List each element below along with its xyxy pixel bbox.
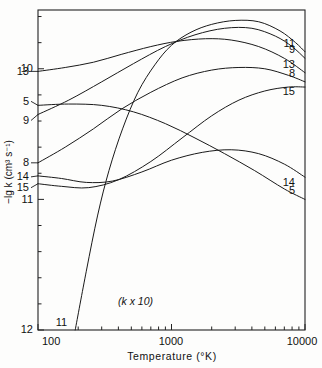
curve-8 — [38, 67, 305, 162]
chart-canvas: 1359814151111913815514 100 1000 10000 10… — [0, 0, 322, 368]
curve-label-right-8: 8 — [289, 67, 295, 79]
curve-label-right-9: 9 — [289, 43, 295, 55]
y-tick-label-10: 10 — [21, 62, 33, 74]
annotation-k-times-ten: (k x 10) — [118, 295, 153, 307]
curve-label-right-15: 15 — [283, 85, 295, 97]
x-tick-label-1000: 1000 — [159, 335, 183, 347]
curve-label-left-5: 5 — [23, 95, 29, 107]
curve-14 — [38, 150, 305, 183]
x-axis-title: Temperature (°K) — [127, 350, 217, 362]
y-tick-label-11: 11 — [22, 193, 33, 205]
y-axis-title: −lg k (cm³ s⁻¹) — [3, 140, 14, 204]
data-curves — [38, 20, 305, 330]
x-tick-label-100: 100 — [42, 335, 60, 347]
plot-frame — [38, 10, 305, 330]
curve-9 — [38, 27, 305, 114]
curve-label-left-8: 8 — [23, 156, 29, 168]
curve-labels: 1359814151111913815514 — [17, 37, 295, 328]
y-tick-label-12: 12 — [21, 323, 33, 335]
axis-ticks — [38, 17, 305, 330]
curve-5 — [38, 104, 305, 199]
x-tick-label-10000: 10000 — [287, 335, 318, 347]
curve-label-right-14: 14 — [283, 176, 295, 188]
curve-label-left-11: 11 — [56, 316, 67, 328]
chart-figure: 1359814151111913815514 100 1000 10000 10… — [0, 0, 322, 368]
curve-15 — [38, 87, 305, 188]
curve-11 — [75, 20, 305, 330]
curve-label-left-9: 9 — [23, 114, 29, 126]
curve-label-left-15: 15 — [17, 181, 29, 193]
